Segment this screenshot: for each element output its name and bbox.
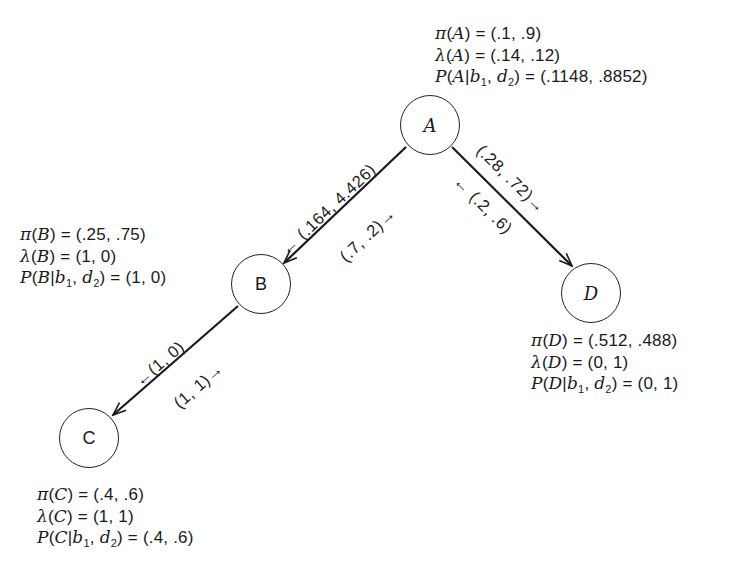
node-d-lambda: λ(D) = (0, 1) <box>531 352 678 374</box>
node-a-label: A <box>424 115 437 136</box>
node-b-posterior: P(B|b1, d2) = (1, 0) <box>20 267 166 289</box>
node-a: A <box>400 95 460 155</box>
node-c-lambda: λ(C) = (1, 1) <box>37 506 194 528</box>
node-c-label: C <box>83 428 96 449</box>
node-a-posterior: P(A|b1, d2) = (.1148, .8852) <box>435 66 648 88</box>
node-a-pi: π(A) = (.1, .9) <box>435 23 648 45</box>
node-d-pi: π(D) = (.512, .488) <box>531 330 678 352</box>
node-c: C <box>59 408 119 468</box>
node-d-info: π(D) = (.512, .488) λ(D) = (0, 1) P(D|b1… <box>531 330 678 395</box>
node-c-info: π(C) = (.4, .6) λ(C) = (1, 1) P(C|b1, d2… <box>37 484 194 549</box>
node-a-lambda: λ(A) = (.14, .12) <box>435 45 648 67</box>
node-b-lambda: λ(B) = (1, 0) <box>20 246 166 268</box>
node-d-label: D <box>584 283 598 304</box>
node-d: D <box>561 263 621 323</box>
node-b-label: B <box>255 274 267 295</box>
node-a-info: π(A) = (.1, .9) λ(A) = (.14, .12) P(A|b1… <box>435 23 648 88</box>
node-b: B <box>231 254 291 314</box>
node-b-pi: π(B) = (.25, .75) <box>20 224 166 246</box>
node-d-posterior: P(D|b1, d2) = (0, 1) <box>531 373 678 395</box>
node-c-pi: π(C) = (.4, .6) <box>37 484 194 506</box>
node-c-posterior: P(C|b1, d2) = (.4, .6) <box>37 527 194 549</box>
node-b-info: π(B) = (.25, .75) λ(B) = (1, 0) P(B|b1, … <box>20 224 166 289</box>
